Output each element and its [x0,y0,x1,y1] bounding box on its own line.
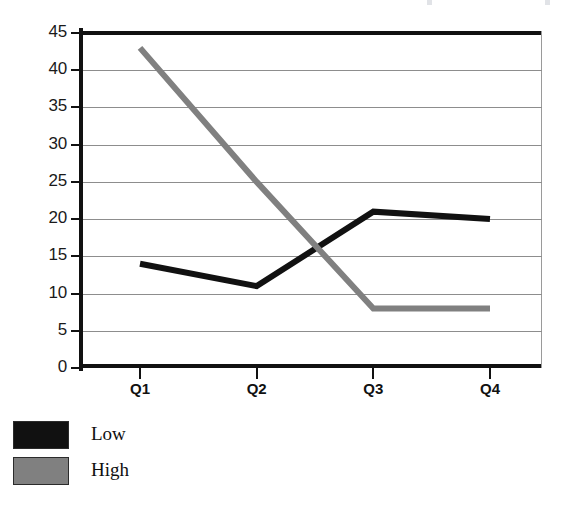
crop-artifact [545,0,550,5]
y-axis-label: 5 [27,320,67,340]
gridline [82,182,542,183]
y-axis-label: 25 [27,171,67,191]
chart-legend: Low High [13,419,253,491]
gridline [82,145,542,146]
chart-figure: 454035302520151050 Q1Q2Q3Q4 Low High [0,0,564,527]
y-axis-tick [71,330,83,332]
y-axis-label: 0 [27,357,67,377]
x-axis-label-q3: Q3 [343,380,403,397]
x-axis-label-q4: Q4 [460,380,520,397]
x-axis-tick [372,368,374,379]
legend-swatch-low [13,421,69,449]
y-axis-tick [71,32,83,34]
gridline [82,107,542,108]
x-axis-label-q1: Q1 [110,380,170,397]
x-axis-label-q2: Q2 [227,380,287,397]
gridline [82,256,542,257]
y-axis-tick [71,255,83,257]
gridline [82,219,542,220]
y-axis-tick [71,218,83,220]
x-axis-tick [489,368,491,379]
y-axis-tick [71,69,83,71]
y-axis-tick [71,367,83,369]
crop-artifact [427,0,432,5]
x-axis-tick [139,368,141,379]
plot-right-border [541,31,542,368]
legend-label-high: High [91,459,129,481]
legend-item-low[interactable]: Low [13,419,253,455]
y-axis-tick [71,181,83,183]
y-axis-label: 40 [27,59,67,79]
legend-item-high[interactable]: High [13,455,253,491]
y-axis-label: 45 [27,22,67,42]
y-axis-label: 20 [27,208,67,228]
plot-top-border [82,31,542,35]
y-axis-label: 35 [27,96,67,116]
y-axis-label: 30 [27,134,67,154]
gridline [82,294,542,295]
x-axis-tick [256,368,258,379]
gridline [82,331,542,332]
y-axis-label: 10 [27,283,67,303]
y-axis-label: 15 [27,245,67,265]
legend-swatch-high [13,457,69,485]
y-axis-tick [71,144,83,146]
plot-bottom-border [82,364,542,368]
y-axis-tick [71,106,83,108]
gridline [82,70,542,71]
legend-label-low: Low [91,423,126,445]
y-axis-tick [71,293,83,295]
plot-area [82,31,542,368]
